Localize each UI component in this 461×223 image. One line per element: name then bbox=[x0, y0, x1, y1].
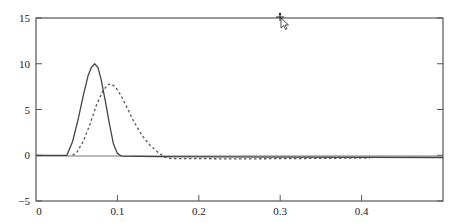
plot-frame bbox=[36, 18, 443, 201]
x-axis: 00.10.20.30.4 bbox=[36, 195, 369, 217]
x-tick-label: 0.2 bbox=[192, 205, 206, 217]
series-solid-line bbox=[36, 64, 443, 158]
x-tick-label: 0.4 bbox=[355, 205, 369, 217]
y-axis: −5051015 bbox=[18, 12, 443, 207]
y-tick-label: 0 bbox=[25, 149, 31, 161]
x-tick-label: 0.1 bbox=[111, 205, 125, 217]
mouse-cursor-icon bbox=[276, 13, 289, 30]
line-chart: −5051015 00.10.20.30.4 bbox=[0, 0, 461, 223]
series-dashed-line bbox=[73, 84, 370, 159]
y-tick-label: 15 bbox=[19, 12, 31, 24]
x-tick-label: 0.3 bbox=[273, 205, 287, 217]
series-group bbox=[36, 64, 443, 159]
x-tick-label: 0 bbox=[36, 205, 42, 217]
y-tick-label: −5 bbox=[18, 195, 30, 207]
y-tick-label: 5 bbox=[25, 104, 31, 116]
y-tick-label: 10 bbox=[19, 58, 31, 70]
